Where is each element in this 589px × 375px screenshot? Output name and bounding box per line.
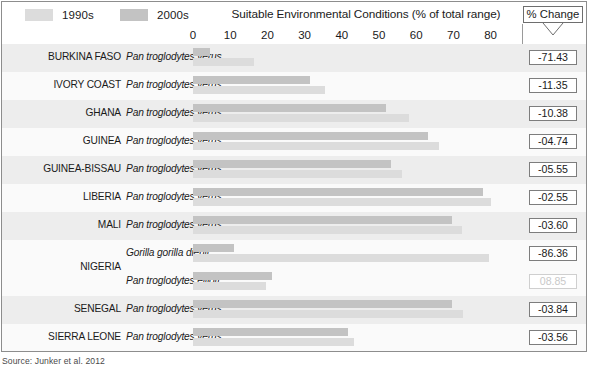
bar-1990s <box>193 114 409 122</box>
species-subrow: Pan troglodytes verus-02.55 <box>2 184 587 212</box>
legend-item-2000s: 2000s <box>120 8 189 22</box>
percent-change-value: -71.43 <box>529 50 577 65</box>
species-subrow: Pan troglodytes verus-05.55 <box>2 156 587 184</box>
species-label: Pan troglodytes verus <box>126 163 198 174</box>
percent-change-value: -86.36 <box>529 246 577 261</box>
species-label: Pan troglodytes verus <box>126 107 198 118</box>
bar-2000s <box>193 272 272 280</box>
x-tick-40: 40 <box>327 28 357 43</box>
bar-2000s <box>193 48 210 56</box>
table-row: MALIPan troglodytes verus-03.60 <box>2 212 587 240</box>
species-label: Pan troglodytes verus <box>126 135 198 146</box>
percent-change-value: -03.84 <box>529 302 577 317</box>
species-subrow: Gorilla gorilla diehli-86.36 <box>2 240 587 268</box>
bar-2000s <box>193 104 386 112</box>
percent-change-header: % Change <box>523 6 583 23</box>
species-subrow: Pan troglodytes verus-04.74 <box>2 128 587 156</box>
percent-change-value: 08.85 <box>529 274 577 289</box>
percent-change-value: -04.74 <box>529 134 577 149</box>
bar-1990s <box>193 86 325 94</box>
figure-suitable-environmental-conditions: 1990s 2000s Suitable Environmental Condi… <box>0 0 589 375</box>
bar-1990s <box>193 170 402 178</box>
chart-frame: 1990s 2000s Suitable Environmental Condi… <box>1 1 587 352</box>
species-subrow: Pan troglodytes verus-03.84 <box>2 296 587 324</box>
table-row: GUINEAPan troglodytes verus-04.74 <box>2 128 587 156</box>
percent-change-value: -10.38 <box>529 106 577 121</box>
bar-2000s <box>193 188 483 196</box>
x-axis-tick-labels: 01020304050607080 <box>2 28 587 44</box>
table-row: NIGERIAGorilla gorilla diehli-86.36Pan t… <box>2 240 587 296</box>
species-subrow: Pan troglodytes verus-10.38 <box>2 100 587 128</box>
axis-title: Suitable Environmental Conditions (% of … <box>216 7 516 21</box>
bar-2000s <box>193 160 391 168</box>
percent-change-value: -02.55 <box>529 190 577 205</box>
percent-change-value: -11.35 <box>529 78 577 93</box>
bar-1990s <box>193 58 254 66</box>
table-row: GUINEA-BISSAUPan troglodytes verus-05.55 <box>2 156 587 184</box>
x-tick-60: 60 <box>401 28 431 43</box>
table-row: GHANAPan troglodytes verus-10.38 <box>2 100 587 128</box>
table-row: SIERRA LEONEPan troglodytes verus-03.56 <box>2 324 587 352</box>
bar-2000s <box>193 328 348 336</box>
species-label: Pan troglodytes verus <box>126 51 198 62</box>
bar-2000s <box>193 244 234 252</box>
species-label: Pan troglodytes verus <box>126 79 198 90</box>
table-row: SENEGALPan troglodytes verus-03.84 <box>2 296 587 324</box>
legend-item-1990s: 1990s <box>25 8 94 22</box>
bar-1990s <box>193 142 439 150</box>
legend-label-1990s: 1990s <box>62 9 94 21</box>
percent-change-value: -03.56 <box>529 330 577 345</box>
bar-1990s <box>193 338 354 346</box>
x-tick-80: 80 <box>476 28 506 43</box>
x-tick-30: 30 <box>290 28 320 43</box>
species-subrow: Pan troglodytes ellioti08.85 <box>2 268 587 296</box>
legend-swatch-2000s <box>120 9 148 21</box>
species-subrow: Pan troglodytes verus-11.35 <box>2 72 587 100</box>
species-label: Pan troglodytes verus <box>126 191 198 202</box>
bar-1990s <box>193 198 491 206</box>
table-row: IVORY COASTPan troglodytes verus-11.35 <box>2 72 587 100</box>
bar-2000s <box>193 132 428 140</box>
species-label: Gorilla gorilla diehli <box>126 247 198 258</box>
x-tick-0: 0 <box>178 28 208 43</box>
bar-2000s <box>193 300 452 308</box>
table-row: BURKINA FASOPan troglodytes verus-71.43 <box>2 44 587 72</box>
bar-2000s <box>193 76 310 84</box>
bar-1990s <box>193 226 462 234</box>
x-tick-70: 70 <box>438 28 468 43</box>
species-subrow: Pan troglodytes verus-71.43 <box>2 44 587 72</box>
percent-change-value: -05.55 <box>529 162 577 177</box>
species-subrow: Pan troglodytes verus-03.56 <box>2 324 587 352</box>
percent-change-value: -03.60 <box>529 218 577 233</box>
bar-1990s <box>193 310 463 318</box>
bar-2000s <box>193 216 452 224</box>
bar-1990s <box>193 282 266 290</box>
bar-1990s <box>193 254 489 262</box>
chart-rows: BURKINA FASOPan troglodytes verus-71.43I… <box>2 44 587 352</box>
x-tick-50: 50 <box>364 28 394 43</box>
legend-label-2000s: 2000s <box>157 9 189 21</box>
species-label: Pan troglodytes ellioti <box>126 275 198 286</box>
legend-swatch-1990s <box>25 9 53 21</box>
species-subrow: Pan troglodytes verus-03.60 <box>2 212 587 240</box>
source-note: Source: Junker et al. 2012 <box>2 356 105 366</box>
species-label: Pan troglodytes verus <box>126 331 198 342</box>
table-row: LIBERIAPan troglodytes verus-02.55 <box>2 184 587 212</box>
species-label: Pan troglodytes verus <box>126 303 198 314</box>
x-tick-20: 20 <box>252 28 282 43</box>
species-label: Pan troglodytes verus <box>126 219 198 230</box>
x-tick-10: 10 <box>215 28 245 43</box>
